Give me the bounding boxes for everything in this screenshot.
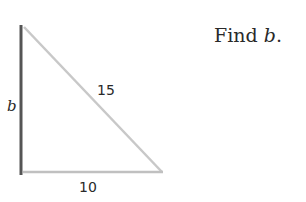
hypotenuse-label: 15 (97, 83, 115, 97)
base-label: 10 (79, 180, 97, 194)
problem-prompt: Find b. (214, 26, 282, 45)
prompt-variable: b (264, 24, 276, 46)
vertical-leg-label: b (7, 99, 17, 114)
prompt-period: . (276, 24, 282, 46)
prompt-text: Find (214, 24, 264, 46)
hypotenuse-15 (24, 27, 162, 172)
